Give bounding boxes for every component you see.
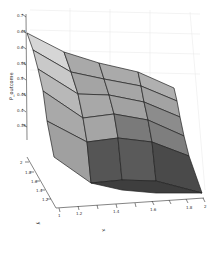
svg-text:0.55: 0.55 xyxy=(17,61,26,66)
svg-text:1.4: 1.4 xyxy=(113,209,120,214)
z-tick-labels: 0.7 0.65 0.6 0.55 0.5 0.45 0.4 0.35 xyxy=(17,13,26,128)
y-tick-labels: 2 1.8 1.6 1.4 1.2 xyxy=(20,160,49,202)
svg-text:1.2: 1.2 xyxy=(76,211,83,216)
svg-text:0.65: 0.65 xyxy=(17,29,26,34)
svg-text:1.8: 1.8 xyxy=(25,170,32,175)
svg-text:1.6: 1.6 xyxy=(31,179,38,184)
svg-text:2: 2 xyxy=(20,160,23,165)
x-axis xyxy=(56,198,205,212)
x-axis-label: x xyxy=(101,228,107,232)
svg-text:0.45: 0.45 xyxy=(17,92,26,97)
surface-plot: 0.7 0.65 0.6 0.55 0.5 0.45 0.4 0.35 P_ou… xyxy=(0,0,219,253)
z-axis-label: P_outcome xyxy=(8,73,15,100)
svg-text:0.7: 0.7 xyxy=(17,13,24,18)
y-axis-label: y xyxy=(35,221,42,225)
svg-text:1.8: 1.8 xyxy=(186,205,193,210)
svg-text:1.4: 1.4 xyxy=(36,188,43,193)
svg-text:2: 2 xyxy=(204,204,207,209)
svg-text:1.6: 1.6 xyxy=(150,207,157,212)
svg-text:0.5: 0.5 xyxy=(17,76,24,81)
y-axis xyxy=(25,157,56,208)
svg-text:0.35: 0.35 xyxy=(17,123,26,128)
svg-text:0.4: 0.4 xyxy=(17,108,24,113)
surface-mesh xyxy=(27,33,202,193)
svg-text:1: 1 xyxy=(58,213,61,218)
svg-text:1.2: 1.2 xyxy=(42,197,49,202)
svg-text:0.6: 0.6 xyxy=(17,45,24,50)
